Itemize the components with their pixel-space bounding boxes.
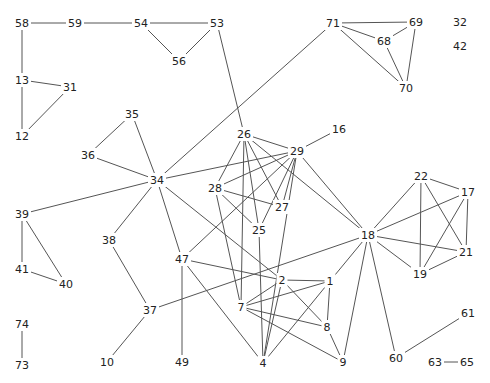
node-71: 71 — [324, 16, 342, 30]
node-label: 47 — [175, 253, 189, 266]
node-8: 8 — [322, 320, 333, 334]
node-21: 21 — [457, 245, 475, 259]
node-label: 59 — [68, 17, 82, 30]
node-25: 25 — [250, 223, 268, 237]
node-label: 28 — [208, 182, 222, 195]
edge-34-47 — [157, 180, 182, 259]
edge-18-9 — [343, 235, 368, 362]
edge-29-25 — [259, 151, 297, 230]
edge-18-22 — [368, 176, 421, 235]
node-label: 39 — [15, 208, 29, 221]
node-label: 21 — [459, 246, 473, 259]
node-65: 65 — [458, 355, 476, 369]
edge-60-61 — [396, 313, 468, 358]
node-53: 53 — [208, 16, 226, 30]
edge-36-34 — [88, 155, 157, 180]
node-2: 2 — [277, 273, 288, 287]
node-28: 28 — [206, 181, 224, 195]
edge-29-4 — [263, 151, 297, 363]
edge-38-37 — [109, 240, 150, 310]
node-39: 39 — [13, 207, 31, 221]
node-label: 31 — [63, 81, 77, 94]
node-label: 25 — [252, 224, 266, 237]
edge-34-39 — [22, 180, 157, 214]
node-label: 22 — [414, 170, 428, 183]
node-1: 1 — [325, 274, 336, 288]
edge-28-7 — [215, 188, 241, 307]
node-26: 26 — [235, 127, 253, 141]
node-label: 60 — [389, 352, 403, 365]
edge-29-18 — [297, 151, 368, 235]
edge-17-19 — [420, 192, 468, 274]
node-70: 70 — [397, 81, 415, 95]
node-7: 7 — [236, 300, 247, 314]
edge-69-70 — [406, 22, 416, 88]
node-label: 10 — [100, 356, 114, 369]
node-label: 65 — [460, 356, 474, 369]
node-label: 2 — [279, 274, 286, 287]
edge-71-34 — [157, 23, 333, 180]
node-label: 4 — [260, 357, 267, 370]
node-label: 63 — [428, 356, 442, 369]
edge-17-21 — [466, 192, 468, 252]
node-label: 41 — [15, 263, 29, 276]
node-label: 37 — [143, 304, 157, 317]
node-13: 13 — [13, 73, 31, 87]
edge-18-17 — [368, 192, 468, 235]
node-34: 34 — [148, 173, 166, 187]
node-label: 70 — [399, 82, 413, 95]
edge-31-12 — [22, 87, 70, 136]
node-label: 9 — [340, 356, 347, 369]
node-label: 34 — [150, 174, 164, 187]
node-label: 29 — [290, 145, 304, 158]
edge-34-38 — [109, 180, 157, 240]
edge-25-4 — [259, 230, 263, 363]
node-56: 56 — [170, 54, 188, 68]
edge-22-19 — [420, 176, 421, 274]
node-49: 49 — [173, 355, 191, 369]
node-17: 17 — [459, 185, 477, 199]
node-label: 7 — [238, 301, 245, 314]
node-68: 68 — [375, 34, 393, 48]
node-47: 47 — [173, 252, 191, 266]
edge-2-8 — [282, 280, 327, 327]
node-60: 60 — [387, 351, 405, 365]
node-29: 29 — [288, 144, 306, 158]
node-73: 73 — [13, 358, 31, 372]
edge-71-70 — [333, 23, 406, 88]
edge-7-8 — [241, 307, 327, 327]
edge-2-1 — [282, 280, 330, 281]
edge-37-10 — [107, 310, 150, 362]
node-22: 22 — [412, 169, 430, 183]
node-label: 40 — [59, 278, 73, 291]
node-label: 54 — [134, 17, 148, 30]
node-label: 73 — [15, 359, 29, 372]
node-label: 69 — [409, 16, 423, 29]
node-label: 32 — [453, 16, 467, 29]
node-label: 19 — [413, 268, 427, 281]
node-61: 61 — [459, 306, 477, 320]
node-label: 38 — [102, 234, 116, 247]
node-label: 12 — [15, 130, 29, 143]
node-41: 41 — [13, 262, 31, 276]
edge-53-26 — [217, 23, 244, 134]
node-10: 10 — [98, 355, 116, 369]
node-18: 18 — [359, 228, 377, 242]
node-label: 56 — [172, 55, 186, 68]
node-label: 36 — [81, 149, 95, 162]
node-label: 42 — [453, 40, 467, 53]
edge-26-7 — [241, 134, 244, 307]
node-32: 32 — [451, 15, 469, 29]
edge-47-4 — [182, 259, 263, 363]
edge-2-4 — [263, 280, 282, 363]
node-42: 42 — [451, 39, 469, 53]
node-31: 31 — [61, 80, 79, 94]
node-54: 54 — [132, 16, 150, 30]
node-38: 38 — [100, 233, 118, 247]
node-label: 74 — [15, 318, 29, 331]
node-label: 8 — [324, 321, 331, 334]
node-label: 61 — [461, 307, 475, 320]
node-label: 17 — [461, 186, 475, 199]
node-4: 4 — [258, 356, 269, 370]
edge-71-69 — [333, 22, 416, 23]
